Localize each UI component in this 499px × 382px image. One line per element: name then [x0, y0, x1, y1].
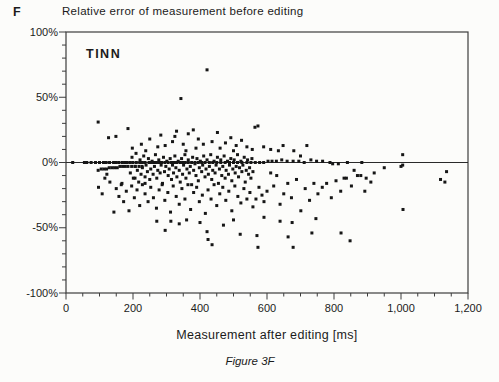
- y-tick-label: 100%: [6, 26, 58, 39]
- y-tick-label: 50%: [6, 91, 58, 104]
- x-tick-label: 600: [239, 302, 295, 315]
- x-axis-title: Measurement after editing [ms]: [117, 328, 417, 342]
- x-tick-label: 1,200: [440, 302, 496, 315]
- y-tick-label: 0%: [6, 156, 58, 169]
- scatter-plot-svg: [0, 0, 499, 382]
- x-tick-label: 1,000: [373, 302, 429, 315]
- x-tick-label: 800: [306, 302, 362, 315]
- x-tick-label: 400: [172, 302, 228, 315]
- y-tick-label: -100%: [6, 287, 58, 300]
- series-annotation: TINN: [86, 47, 121, 61]
- figure-panel: F Relative error of measurement before e…: [0, 0, 499, 382]
- y-tick-label: -50%: [6, 221, 58, 234]
- x-tick-label: 200: [105, 302, 161, 315]
- x-tick-label: 0: [38, 302, 94, 315]
- figure-caption: Figure 3F: [100, 355, 400, 367]
- scatter-points: [71, 68, 448, 248]
